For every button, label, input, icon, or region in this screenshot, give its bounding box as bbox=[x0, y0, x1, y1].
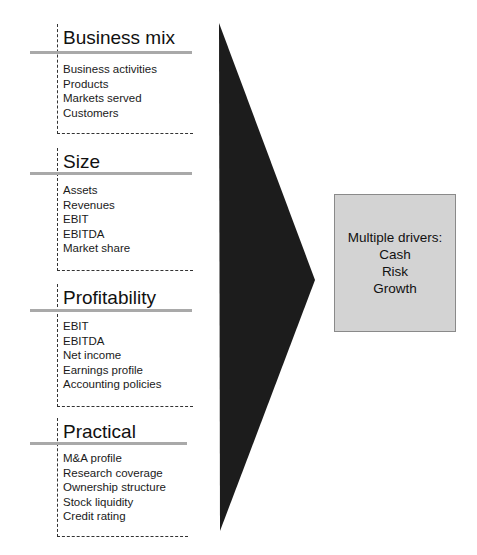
multiple-drivers-box: Multiple drivers: Cash Risk Growth bbox=[334, 194, 456, 332]
driver-line: Risk bbox=[382, 263, 408, 280]
drivers-heading: Multiple drivers: bbox=[348, 229, 443, 246]
driver-line: Cash bbox=[379, 246, 411, 263]
driver-line: Growth bbox=[373, 280, 417, 297]
